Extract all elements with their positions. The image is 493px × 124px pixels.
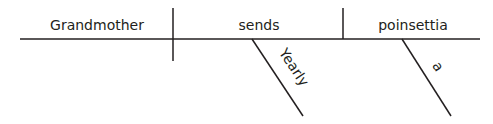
verb-word: sends bbox=[239, 17, 280, 33]
direct-object-word: poinsettia bbox=[378, 17, 448, 33]
sentence-diagram: Grandmother sends poinsettia Yearly a bbox=[0, 0, 493, 124]
subject-word: Grandmother bbox=[50, 17, 144, 33]
object-modifier-slant bbox=[402, 39, 451, 116]
object-modifier-word: a bbox=[429, 58, 447, 74]
